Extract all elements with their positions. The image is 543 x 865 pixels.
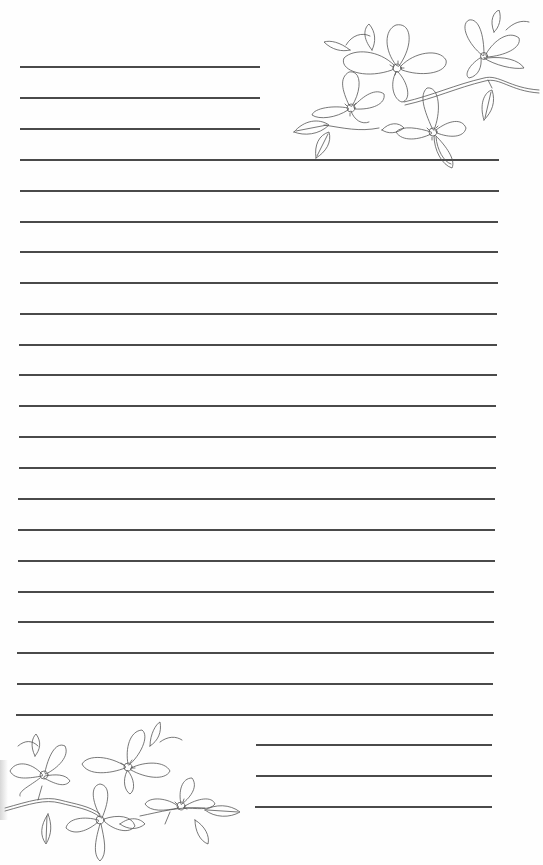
writing-line [19, 467, 496, 469]
writing-line [20, 282, 498, 284]
writing-line [19, 344, 497, 346]
writing-line [18, 621, 494, 623]
top-short-writing-line [20, 128, 260, 130]
top-short-writing-line [20, 97, 260, 99]
writing-line [20, 190, 499, 192]
dogwood-flower-branch-icon [0, 716, 250, 865]
top-short-writing-line [20, 66, 260, 68]
writing-line [20, 221, 498, 223]
bottom-short-writing-line [256, 744, 492, 746]
writing-line [20, 313, 497, 315]
bottom-short-writing-line [255, 806, 492, 808]
writing-line [19, 436, 496, 438]
writing-line [18, 498, 495, 500]
writing-line [18, 529, 495, 531]
page-edge-shadow [0, 760, 8, 820]
writing-line [17, 683, 493, 685]
bottom-short-writing-line [256, 775, 492, 777]
writing-line [20, 251, 498, 253]
writing-line [18, 591, 494, 593]
dogwood-flower-branch-icon [284, 10, 543, 178]
writing-line [18, 560, 495, 562]
writing-line [17, 652, 494, 654]
writing-line [19, 374, 497, 376]
stationery-page [0, 0, 543, 865]
writing-line [19, 405, 496, 407]
